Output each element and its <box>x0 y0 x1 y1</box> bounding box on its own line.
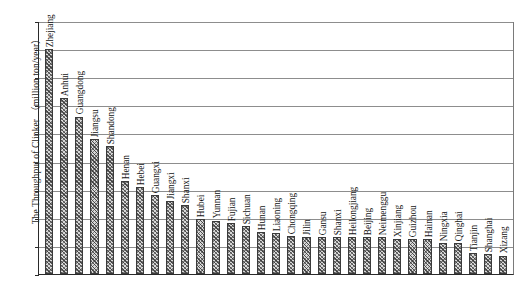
bar-slot: Yunnan <box>208 22 223 274</box>
bar-category-label: Shanxi <box>334 210 343 236</box>
bar-slot: Fujian <box>223 22 238 274</box>
bar-category-label: Anhui <box>61 73 70 96</box>
bar[interactable]: Shanghai <box>484 254 492 274</box>
bar[interactable]: Tianjin <box>469 253 477 274</box>
bar[interactable]: Guangxi <box>151 195 159 274</box>
bar[interactable]: Hubei <box>196 219 204 274</box>
bar[interactable]: Henan <box>121 181 129 274</box>
bar-slot: Jiangsu <box>87 22 102 274</box>
bar[interactable]: Xinjiang <box>393 239 401 274</box>
bar-category-label: Tianjin <box>470 224 479 251</box>
bar[interactable]: Hainan <box>423 239 431 274</box>
bar-slot: Shanxi <box>329 22 344 274</box>
bar-slot: Xinjiang <box>390 22 405 274</box>
bar-slot: Hainan <box>420 22 435 274</box>
bar[interactable]: Fujian <box>227 223 235 274</box>
bar[interactable]: Neimenggu <box>378 237 386 274</box>
bar[interactable]: Shanxi <box>333 237 341 274</box>
bar[interactable]: Zhejiang <box>45 49 53 274</box>
bar-slot: Liaoning <box>269 22 284 274</box>
bar[interactable]: Jiangsu <box>90 139 98 274</box>
bar-slot: Shanghai <box>481 22 496 274</box>
bar-category-label: Beijing <box>364 208 373 235</box>
bar[interactable]: Yunnan <box>212 221 220 274</box>
bar[interactable]: Hebei <box>136 187 144 274</box>
bar-category-label: Xinjiang <box>395 204 404 237</box>
bar[interactable]: Shandong <box>106 146 114 274</box>
bar-slot: Chongqing <box>284 22 299 274</box>
bar-slot: Ningxia <box>435 22 450 274</box>
bar-category-label: Guangxi <box>152 161 161 193</box>
bar[interactable]: Guizhou <box>408 239 416 274</box>
bar-slot: Heilongjiang <box>344 22 359 274</box>
bar[interactable]: Anhui <box>60 98 68 274</box>
bar-slot: Shandong <box>102 22 117 274</box>
bar-slot: Henan <box>117 22 132 274</box>
bar[interactable]: Sichuan <box>242 226 250 274</box>
bar-category-label: Yunnan <box>213 190 222 218</box>
bar[interactable]: Liaoning <box>272 233 280 274</box>
bar[interactable]: Jilin <box>302 237 310 274</box>
bar-category-label: Hunan <box>258 205 267 230</box>
bar-category-label: Shanghai <box>485 218 494 253</box>
bar[interactable]: Hunan <box>257 232 265 274</box>
bar[interactable]: Gansu <box>318 237 326 274</box>
bar-slot: Beijing <box>359 22 374 274</box>
bar-category-label: Gansu <box>319 212 328 236</box>
bar-slot: Zhejiang <box>42 22 57 274</box>
bar-category-label: Shandong <box>107 107 116 144</box>
bar-slot: Hubei <box>193 22 208 274</box>
bar-series: ZhejiangAnhuiGuangdongJiangsuShandongHen… <box>39 22 513 274</box>
bar-category-label: Ningxia <box>440 211 449 241</box>
bar-category-label: Zhejiang <box>46 14 55 47</box>
bar-category-label: Xizang <box>500 227 509 254</box>
bar-category-label: Hebei <box>137 163 146 185</box>
bar-slot: Anhui <box>57 22 72 274</box>
bar[interactable]: Chongqing <box>287 236 295 274</box>
bar-category-label: Guangdong <box>77 71 86 114</box>
bar-category-label: Hainan <box>425 210 434 237</box>
bar[interactable]: Xizang <box>499 256 507 274</box>
bar-category-label: Heilongjiang <box>349 187 358 236</box>
y-tick-mark <box>35 275 39 276</box>
bar-slot: Neimenggu <box>375 22 390 274</box>
bar[interactable]: Guangdong <box>75 117 83 274</box>
bar-category-label: Liaoning <box>273 198 282 232</box>
bar-slot: Xizang <box>496 22 511 274</box>
bar-category-label: Fujian <box>228 198 237 222</box>
bar-slot: Guangxi <box>147 22 162 274</box>
bar[interactable]: Beijing <box>363 237 371 274</box>
bar-slot: Guizhou <box>405 22 420 274</box>
bar[interactable]: Qinghai <box>454 243 462 274</box>
bar-category-label: Guizhou <box>410 205 419 237</box>
bar-slot: Hunan <box>253 22 268 274</box>
bar-slot: Jiangxi <box>163 22 178 274</box>
bar-slot: Hebei <box>132 22 147 274</box>
bar[interactable]: Jiangxi <box>166 201 174 274</box>
bar-slot: Jilin <box>299 22 314 274</box>
bar-category-label: Hubei <box>198 194 207 217</box>
bar-slot: Qinghai <box>450 22 465 274</box>
plot-area: 9080706050403020100 ZhejiangAnhuiGuangdo… <box>38 22 514 275</box>
bar-slot: Gansu <box>314 22 329 274</box>
bar-slot: Shanxi <box>178 22 193 274</box>
bar[interactable]: Shanxi <box>181 205 189 274</box>
bar-category-label: Qinghai <box>455 211 464 241</box>
bar-category-label: Shanxi <box>183 177 192 203</box>
bar-category-label: Jiangxi <box>167 172 176 199</box>
bar-category-label: Jiangsu <box>92 109 101 137</box>
bar-slot: Guangdong <box>72 22 87 274</box>
bar-slot: Sichuan <box>238 22 253 274</box>
bar-category-label: Neimenggu <box>379 192 388 235</box>
bar-category-label: Jilin <box>304 219 313 235</box>
bar-slot: Tianjin <box>465 22 480 274</box>
bar-category-label: Sichuan <box>243 194 252 224</box>
bar-category-label: Chongqing <box>289 193 298 234</box>
bar-category-label: Henan <box>122 155 131 179</box>
bar[interactable]: Ningxia <box>439 243 447 274</box>
chart-figure: The Throughput of Clinker （million ton/y… <box>0 0 520 291</box>
bar[interactable]: Heilongjiang <box>348 237 356 274</box>
